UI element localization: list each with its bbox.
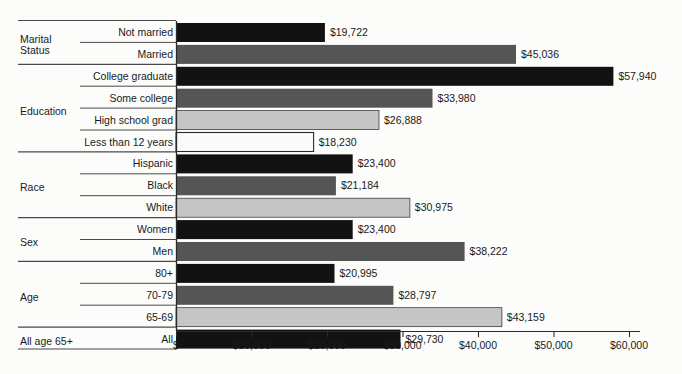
bar-70-79[interactable]: [176, 286, 393, 305]
value-label-hispanic: $23,400: [358, 158, 396, 169]
value-label-some-college: $33,980: [438, 93, 476, 104]
group-label-line: Education: [20, 106, 67, 117]
group-label-race: Race: [20, 182, 45, 193]
group-label-marital-status: MaritalStatus: [20, 34, 52, 56]
category-label-65-69: 65-69: [146, 312, 173, 323]
bar-white[interactable]: [176, 198, 410, 217]
x-axis-tick-label: $10,000: [212, 340, 292, 351]
category-label-white: White: [146, 202, 173, 213]
group-label-sex: Sex: [20, 237, 38, 248]
value-label-black: $21,184: [341, 180, 379, 191]
category-label-70-79: 70-79: [146, 290, 173, 301]
x-axis-tick-label: $60,000: [589, 340, 669, 351]
value-label-women: $23,400: [358, 224, 396, 235]
bar-black[interactable]: [176, 176, 336, 195]
value-label-not-married: $19,722: [330, 27, 368, 38]
bar-married[interactable]: [176, 45, 516, 64]
group-label-line: Age: [20, 292, 39, 303]
category-label-hispanic: Hispanic: [133, 158, 173, 169]
category-label-80-: 80+: [155, 268, 173, 279]
group-label-all-age-65-: All age 65+: [20, 336, 73, 347]
value-label-less-than-12-years: $18,230: [319, 137, 357, 148]
value-label-college-graduate: $57,940: [618, 71, 656, 82]
bar-high-school-grad[interactable]: [176, 111, 379, 130]
bar-college-graduate[interactable]: [176, 67, 613, 86]
group-label-line: Status: [20, 45, 52, 56]
group-label-line: All age 65+: [20, 336, 73, 347]
value-label-65-69: $43,159: [507, 312, 545, 323]
x-axis-tick-label: $50,000: [514, 340, 594, 351]
bar-80-[interactable]: [176, 264, 335, 283]
bar-65-69[interactable]: [176, 308, 502, 327]
value-label-70-79: $28,797: [398, 290, 436, 301]
x-axis-tick-label: $: [136, 340, 216, 351]
value-label-married: $45,036: [521, 49, 559, 60]
bar-not-married[interactable]: [176, 23, 325, 42]
group-label-line: Sex: [20, 237, 38, 248]
category-label-married: Married: [137, 49, 173, 60]
bar-men[interactable]: [176, 242, 465, 261]
x-axis-tick-label: $40,000: [438, 340, 518, 351]
value-label-men: $38,222: [470, 246, 508, 257]
bar-women[interactable]: [176, 220, 353, 239]
income-bar-chart: Not married$19,722Married$45,036College …: [0, 0, 682, 374]
group-label-education: Education: [20, 106, 67, 117]
value-label-white: $30,975: [415, 202, 453, 213]
category-label-some-college: Some college: [109, 93, 173, 104]
category-label-black: Black: [147, 180, 173, 191]
bar-less-than-12-years[interactable]: [176, 133, 314, 152]
category-label-college-graduate: College graduate: [93, 71, 173, 82]
category-label-not-married: Not married: [118, 27, 173, 38]
value-label-80-: $20,995: [340, 268, 378, 279]
category-label-less-than-12-years: Less than 12 years: [84, 137, 173, 148]
category-label-high-school-grad: High school grad: [94, 115, 173, 126]
group-label-line: Race: [20, 182, 45, 193]
group-label-age: Age: [20, 292, 39, 303]
value-label-high-school-grad: $26,888: [384, 115, 422, 126]
category-label-women: Women: [137, 224, 173, 235]
bar-some-college[interactable]: [176, 89, 433, 108]
x-axis-tick-label: $20,000: [287, 340, 367, 351]
bar-hispanic[interactable]: [176, 154, 353, 173]
x-axis-tick-label: $30,000: [363, 340, 443, 351]
category-label-men: Men: [153, 246, 173, 257]
